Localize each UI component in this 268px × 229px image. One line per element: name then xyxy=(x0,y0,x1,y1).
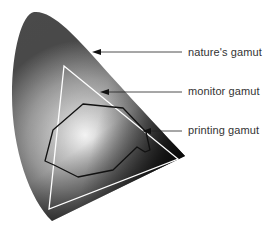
label-monitor-gamut: monitor gamut xyxy=(188,85,260,97)
label-printing-gamut: printing gamut xyxy=(188,124,259,136)
label-natures-gamut: nature's gamut xyxy=(188,46,262,58)
gamut-figure xyxy=(0,0,268,229)
arrow-natures-gamut xyxy=(92,49,182,55)
gamut-diagram: nature's gamut monitor gamut printing ga… xyxy=(0,0,268,229)
